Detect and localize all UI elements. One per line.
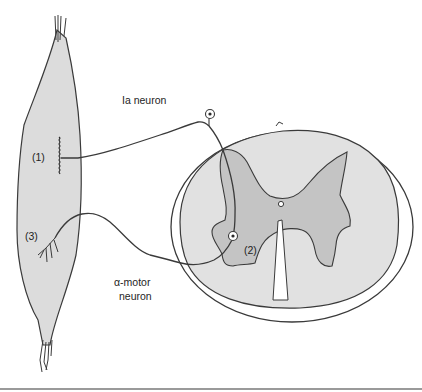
label-alpha-motor-neuron: neuron xyxy=(119,290,152,302)
label-alpha-motor: α-motor xyxy=(114,276,150,288)
label-marker-3: (3) xyxy=(25,230,38,242)
stretch-reflex-diagram: Ia neuron (1) (2) (3) α-motor neuron xyxy=(0,0,422,392)
motor-cell-body-icon xyxy=(229,232,238,241)
ia-cell-body-icon xyxy=(206,110,215,119)
label-marker-1: (1) xyxy=(32,151,45,163)
label-marker-2: (2) xyxy=(244,244,257,256)
label-ia-neuron: Ia neuron xyxy=(122,94,166,106)
diagram-canvas xyxy=(0,0,422,392)
muscle xyxy=(17,15,81,372)
bottom-divider xyxy=(0,388,422,390)
central-canal xyxy=(278,201,283,206)
